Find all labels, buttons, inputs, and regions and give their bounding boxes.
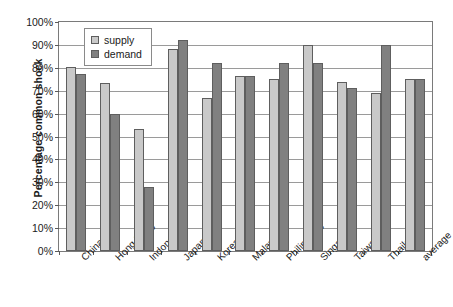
bar-demand — [313, 63, 323, 251]
bar-demand — [245, 76, 255, 251]
legend-item-demand: demand — [91, 47, 142, 61]
bar-group — [195, 22, 229, 251]
bar-group — [330, 22, 364, 251]
bar-demand — [381, 45, 391, 251]
y-tick-label: 20% — [32, 199, 53, 211]
bar-demand — [347, 88, 357, 251]
y-tick-label: 60% — [32, 108, 53, 120]
legend-item-supply: supply — [91, 33, 142, 47]
y-tick-label: 30% — [32, 176, 53, 188]
legend-label: supply — [104, 34, 134, 46]
bar-demand — [178, 40, 188, 251]
bar-demand — [212, 63, 222, 251]
x-axis-labels: ChinaHong KongIndonesiaJapanKoreaMalaysi… — [58, 253, 433, 307]
y-tick-label: 80% — [32, 62, 53, 74]
bar-group — [229, 22, 263, 251]
chart-legend: supplydemand — [84, 28, 152, 66]
y-tick-label: 70% — [32, 85, 53, 97]
bar-supply — [269, 79, 279, 251]
bar-supply — [100, 83, 110, 251]
bar-supply — [235, 76, 245, 251]
bar-supply — [66, 67, 76, 251]
bar-supply — [405, 79, 415, 251]
bar-supply — [168, 49, 178, 251]
y-tick-label: 40% — [32, 153, 53, 165]
y-tick-label: 10% — [32, 222, 53, 234]
y-tick-label: 0% — [38, 245, 53, 257]
bar-group — [161, 22, 195, 251]
bar-group — [364, 22, 398, 251]
bar-demand — [76, 74, 86, 251]
plot-area: 100%90%80%70%60%50%40%30%20%10%0% supply… — [58, 21, 433, 252]
legend-label: demand — [104, 48, 142, 60]
bar-supply — [337, 82, 347, 251]
bar-group — [262, 22, 296, 251]
bar-supply — [202, 98, 212, 251]
bar-group — [398, 22, 432, 251]
bar-supply — [371, 93, 381, 251]
bar-group — [296, 22, 330, 251]
bar-demand — [279, 63, 289, 251]
bar-demand — [415, 79, 425, 251]
y-tick-label: 90% — [32, 39, 53, 51]
bar-demand — [110, 114, 120, 251]
bar-supply — [303, 45, 313, 251]
legend-swatch-supply — [91, 36, 99, 44]
bar-demand — [144, 187, 154, 251]
y-tick-label: 50% — [32, 131, 53, 143]
legend-swatch-demand — [91, 50, 99, 58]
y-tick-label: 100% — [26, 16, 53, 28]
bar-supply — [134, 129, 144, 252]
y-axis-title: Percentage common shock — [32, 28, 44, 228]
